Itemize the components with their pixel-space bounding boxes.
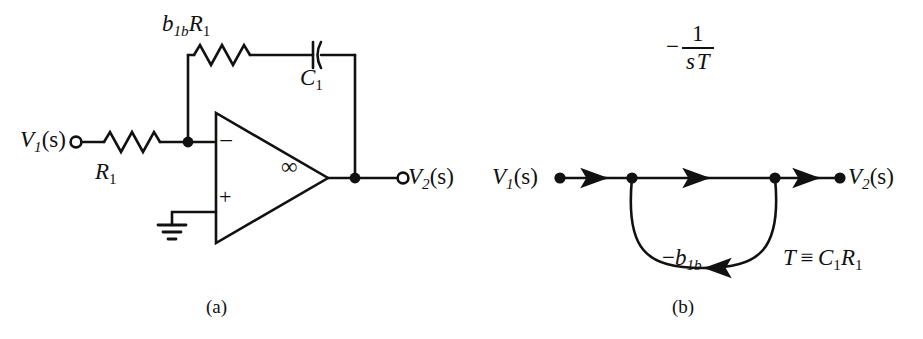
output-voltage-argument: (s) [430, 164, 454, 189]
input-voltage-subscript: 1 [34, 138, 42, 155]
definition-resistor-subscript: 1 [855, 256, 863, 273]
wire-noninverting-to-ground [172, 212, 216, 225]
sfg-input-argument: (s) [514, 164, 538, 189]
denominator-s: s [686, 49, 695, 74]
sfg-output-symbol: V [848, 164, 862, 189]
node-dot-output [350, 173, 361, 184]
sfg-forward-gain-fraction: 1s T [682, 22, 714, 74]
sfg-feedback-gain-subscript: 1b [686, 256, 701, 273]
opamp-gain-label: ∞ [281, 155, 297, 178]
sfg-forward-gain-label: −1s T [666, 22, 714, 74]
sfg-node-v1 [554, 172, 565, 183]
identity-operator: ≡ [800, 245, 813, 270]
sfg-input-symbol: V [492, 164, 506, 189]
caption-part-b: (b) [672, 296, 694, 318]
input-resistor-label: R1 [95, 160, 117, 186]
definition-capacitor-symbol: C [818, 245, 833, 270]
sfg-output-argument: (s) [870, 164, 894, 189]
sfg-output-node-label: V2(s) [848, 165, 894, 191]
input-voltage-label: V1(s) [20, 128, 66, 154]
feedback-gain-subscript: 1b [174, 22, 189, 39]
sfg-feedback-arc [631, 178, 777, 268]
sfg-feedback-gain-label: −b1b [662, 246, 702, 272]
capacitor-subscript: 1 [315, 76, 323, 93]
feedback-gain-symbol: b [162, 11, 174, 36]
feedback-resistor-symbol: R [189, 11, 203, 36]
feedback-resistor-subscript: 1 [203, 22, 211, 39]
input-terminal-circle [71, 137, 82, 148]
caption-part-a: (a) [206, 296, 227, 318]
sfg-feedback-gain-sign: − [662, 245, 675, 270]
output-voltage-label: V2(s) [408, 165, 454, 191]
feedback-capacitor-label: C1 [300, 66, 323, 92]
sfg-forward-gain-sign: − [666, 35, 682, 58]
input-voltage-argument: (s) [42, 127, 66, 152]
capacitor-symbol: C [300, 65, 315, 90]
definition-resistor-symbol: R [841, 245, 855, 270]
input-voltage-symbol: V [20, 127, 34, 152]
sfg-forward-gain-denominator: s T [682, 49, 714, 74]
time-constant-definition: T ≡ C1R1 [783, 246, 863, 272]
input-resistor-subscript: 1 [109, 170, 117, 187]
sfg-node-v2 [834, 172, 845, 183]
sfg-output-subscript: 2 [862, 175, 870, 192]
output-voltage-symbol: V [408, 164, 422, 189]
feedback-resistor-label: b1bR1 [162, 12, 210, 38]
sfg-input-subscript: 1 [506, 175, 514, 192]
sfg-forward-gain-numerator: 1 [682, 22, 714, 47]
part-a-schematic [71, 42, 409, 243]
output-voltage-subscript: 2 [422, 175, 430, 192]
opamp-noninverting-input-label: + [219, 186, 231, 208]
figure-container: V1(s) R1 b1bR1 C1 V2(s) − + ∞ (a) V1(s) … [0, 0, 923, 339]
time-constant-symbol: T [783, 245, 796, 270]
denominator-t: T [697, 49, 710, 74]
opamp-inverting-input-label: − [219, 128, 233, 153]
figure-artwork [0, 0, 923, 339]
node-dot-summing [183, 137, 194, 148]
sfg-input-node-label: V1(s) [492, 165, 538, 191]
sfg-node-output [769, 172, 780, 183]
sfg-node-summing [626, 172, 637, 183]
resistor-feedback-symbol [194, 45, 250, 65]
resistor-r1-symbol [104, 132, 160, 152]
sfg-feedback-gain-symbol: b [675, 245, 687, 270]
output-terminal-circle [398, 173, 409, 184]
definition-capacitor-subscript: 1 [833, 256, 841, 273]
input-resistor-symbol: R [95, 159, 109, 184]
